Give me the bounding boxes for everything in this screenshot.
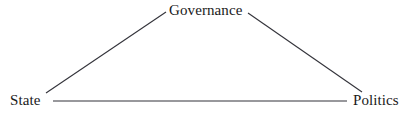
edge-governance-politics — [248, 13, 362, 92]
edge-state-governance — [46, 12, 166, 93]
node-label-state: State — [10, 93, 41, 108]
node-label-governance: Governance — [169, 3, 242, 18]
triangle-diagram: Governance State Politics — [0, 0, 404, 118]
node-label-politics: Politics — [353, 93, 399, 108]
